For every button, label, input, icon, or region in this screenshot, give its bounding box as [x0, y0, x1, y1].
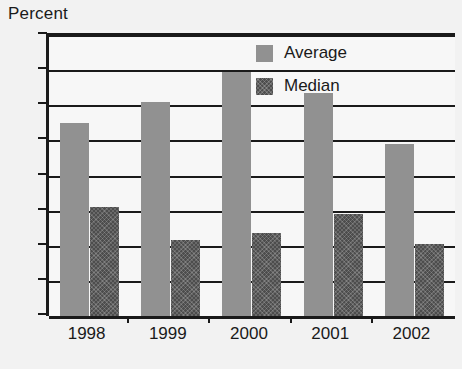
bar-average-2001: [304, 93, 333, 316]
x-axis-tick-mark: [208, 316, 210, 323]
bar-median-1998: [90, 207, 119, 316]
bar-median-2002: [415, 244, 444, 316]
x-axis-tick-label: 1998: [68, 324, 106, 344]
x-axis-tick-mark: [290, 316, 292, 323]
bar-chart: Percent 0246810121416 AverageMedian 1998…: [0, 0, 462, 369]
legend-swatch-median: [256, 78, 273, 95]
x-axis-tick-label: 2002: [392, 324, 430, 344]
x-axis-tick-label: 2000: [230, 324, 268, 344]
bar-average-1998: [60, 123, 89, 316]
bar-median-2000: [252, 233, 281, 316]
y-axis-title: Percent: [8, 4, 68, 24]
bar-median-1999: [171, 240, 200, 316]
bar-average-2002: [385, 144, 414, 316]
bar-group: [374, 35, 455, 316]
legend-label: Median: [284, 76, 340, 96]
bar-median-2001: [334, 214, 363, 316]
x-axis-tick-mark: [371, 316, 373, 323]
bar-average-2000: [222, 72, 251, 316]
bar-group: [130, 35, 211, 316]
plot-area: AverageMedian: [46, 33, 455, 316]
legend-item-average[interactable]: Average: [256, 42, 347, 64]
x-axis-tick-mark: [127, 316, 129, 323]
legend-item-median[interactable]: Median: [256, 75, 347, 97]
legend-label: Average: [284, 43, 347, 63]
x-axis-tick-label: 2001: [311, 324, 349, 344]
legend-swatch-average: [256, 45, 273, 62]
bar-group: [49, 35, 130, 316]
x-axis-tick-label: 1999: [149, 324, 187, 344]
bar-average-1999: [141, 102, 170, 316]
gridline: [49, 316, 455, 319]
chart-legend: AverageMedian: [256, 42, 347, 108]
